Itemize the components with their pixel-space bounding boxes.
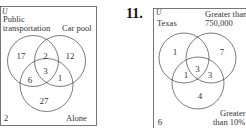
region-texas-only: 1 bbox=[173, 47, 178, 57]
region-outside: 2 bbox=[4, 113, 9, 123]
set-label-greater-than-750000-line2: 750,000 bbox=[205, 18, 233, 28]
region-10pct-only: 4 bbox=[198, 91, 203, 101]
region-carpool-alone: 1 bbox=[58, 73, 63, 83]
region-outside: 6 bbox=[158, 117, 163, 127]
region-750000-only: 7 bbox=[220, 47, 225, 57]
region-public-only: 17 bbox=[17, 51, 27, 61]
problem-number: 11. bbox=[126, 6, 143, 21]
universe-label: U bbox=[156, 8, 162, 17]
region-750000-10pct: 3 bbox=[208, 70, 213, 80]
set-label-car-pool: Car pool bbox=[62, 23, 92, 33]
region-public-carpool: 2 bbox=[43, 51, 48, 61]
region-alone-only: 27 bbox=[40, 96, 50, 106]
set-label-alone: Alone bbox=[66, 113, 87, 123]
set-label-texas: Texas bbox=[157, 18, 177, 28]
set-label-greater-than-10pct-line2: than 10% bbox=[213, 117, 245, 127]
venn-diagram-problem-11: 11. U Texas Greater than 750,000 1 7 3 1… bbox=[126, 6, 246, 128]
set-label-public-transportation-line2: transportation bbox=[3, 23, 51, 33]
region-carpool-only: 12 bbox=[66, 51, 75, 61]
region-all-three: 3 bbox=[43, 66, 48, 76]
region-all-three: 3 bbox=[195, 64, 200, 74]
region-public-alone: 6 bbox=[28, 75, 33, 85]
venn-diagram-commute: U Public transportation Car pool 17 2 12… bbox=[1, 7, 97, 126]
venn-diagrams: U Public transportation Car pool 17 2 12… bbox=[0, 0, 246, 128]
circle-public-transportation bbox=[8, 36, 59, 87]
region-texas-10pct: 1 bbox=[184, 70, 189, 80]
